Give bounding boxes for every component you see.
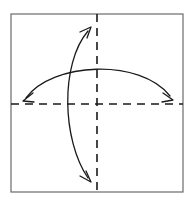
horizontal-curved-arrow (26, 69, 170, 98)
bottom-arrowhead (80, 171, 91, 182)
top-arrowhead (80, 27, 91, 38)
right-arrowhead (162, 93, 173, 102)
diagram-canvas (0, 0, 189, 206)
diagram-svg (0, 0, 189, 206)
